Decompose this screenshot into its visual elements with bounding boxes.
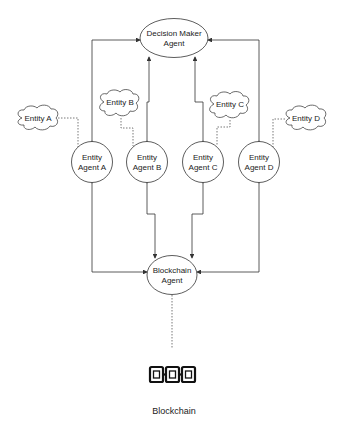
- blockchain-agent-label-2: Agent: [162, 276, 184, 285]
- entity-d-cloud[interactable]: Entity D: [286, 105, 326, 130]
- entity-agent-a[interactable]: Entity Agent A: [72, 142, 113, 183]
- decision-maker-label-1: Decision Maker: [146, 29, 201, 38]
- entity-a-label: Entity A: [24, 114, 52, 123]
- entity-agent-b-label-1: Entity: [137, 153, 157, 162]
- entity-agent-c-label-1: Entity: [193, 153, 213, 162]
- entity-agent-a-label-1: Entity: [82, 153, 102, 162]
- entity-agent-c[interactable]: Entity Agent C: [183, 142, 224, 183]
- entity-agent-c-label-2: Agent C: [189, 163, 218, 172]
- entity-c-label: Entity C: [216, 100, 244, 109]
- entity-a-cloud[interactable]: Entity A: [18, 105, 58, 130]
- entity-c-cloud[interactable]: Entity C: [210, 92, 249, 118]
- decision-maker-agent[interactable]: Decision Maker Agent: [140, 19, 208, 58]
- blockchain-agent[interactable]: Blockchain Agent: [147, 256, 197, 295]
- blockchain-agent-label-1: Blockchain: [153, 266, 192, 275]
- entity-d-label: Entity D: [292, 114, 320, 123]
- entity-agent-b[interactable]: Entity Agent B: [127, 142, 168, 183]
- entity-b-label: Entity B: [106, 98, 134, 107]
- architecture-diagram: Decision Maker Agent Entity Agent A Enti…: [0, 0, 348, 423]
- entity-agent-b-label-2: Agent B: [133, 163, 161, 172]
- decision-maker-label-2: Agent: [164, 39, 186, 48]
- entity-agent-d-label-1: Entity: [249, 153, 269, 162]
- entity-agent-d[interactable]: Entity Agent D: [239, 142, 280, 183]
- entity-b-cloud[interactable]: Entity B: [100, 90, 139, 116]
- entity-agent-d-label-2: Agent D: [245, 163, 274, 172]
- blockchain-caption: Blockchain: [0, 406, 348, 416]
- entity-agent-a-label-2: Agent A: [78, 163, 107, 172]
- blockchain-chain-icon: [150, 367, 195, 382]
